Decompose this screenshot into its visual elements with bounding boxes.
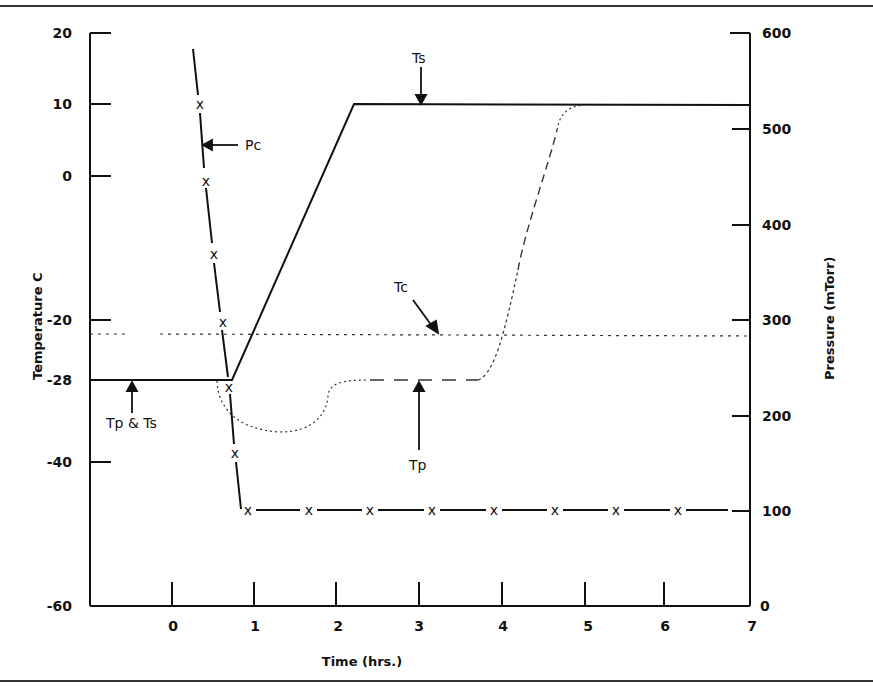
axes [90, 33, 750, 606]
tick-x-5: 5 [583, 618, 593, 634]
y-right-title: Pressure (mTorr) [822, 256, 837, 380]
pc-marker: x [428, 502, 436, 518]
chart: 20 10 0 -20 -28 -40 -60 600 500 400 300 … [0, 0, 873, 686]
series-tc [90, 334, 750, 336]
pc-arrowhead-icon [203, 140, 212, 150]
pc-marker: x [305, 502, 313, 518]
tick-right-200: 200 [762, 408, 791, 424]
label-pc: Pc [245, 137, 261, 153]
left-ticks [90, 104, 111, 462]
label-tc: Tc [393, 279, 408, 295]
x-tick-labels: 0 1 2 3 4 5 6 7 [168, 618, 757, 634]
tick-left-0: 0 [62, 168, 72, 184]
tick-left-minus40: -40 [47, 454, 73, 470]
tick-left-minus28: -28 [47, 372, 72, 388]
tick-right-500: 500 [762, 121, 791, 137]
tick-right-400: 400 [762, 217, 791, 233]
right-ticks [732, 129, 750, 511]
pc-markers: x x x x x x x x x x x x x x [196, 96, 682, 518]
tick-x-7: 7 [747, 618, 757, 634]
tick-left-10: 10 [53, 96, 73, 112]
tick-left-20: 20 [53, 25, 73, 41]
series-tp [217, 105, 584, 432]
tp-arrowhead-icon [414, 382, 424, 391]
pc-marker: x [196, 96, 204, 112]
left-tick-labels: 20 10 0 -20 -28 -40 -60 [47, 25, 73, 614]
tick-x-3: 3 [414, 618, 424, 634]
pc-marker: x [231, 445, 239, 461]
y-left-title: Temperature C [30, 272, 45, 380]
tick-x-1: 1 [250, 618, 260, 634]
x-ticks [172, 582, 664, 606]
tick-left-minus60: -60 [47, 598, 73, 614]
pc-marker: x [366, 502, 374, 518]
pc-marker: x [674, 502, 682, 518]
tick-x-4: 4 [498, 618, 508, 634]
tp-ts-arrowhead-icon [127, 382, 137, 391]
label-tp: Tp [408, 457, 427, 473]
pc-marker: x [219, 314, 227, 330]
tick-x-0: 0 [168, 618, 178, 634]
annotation-arrows [127, 67, 438, 450]
right-tick-labels: 600 500 400 300 200 100 0 [760, 25, 791, 614]
x-axis-title: Time (hrs.) [322, 654, 402, 669]
tick-right-600: 600 [762, 25, 791, 41]
pc-marker: x [490, 502, 498, 518]
tick-right-0: 0 [760, 598, 770, 614]
tick-right-300: 300 [762, 312, 791, 328]
label-tp-ts: Tp & Ts [105, 415, 157, 431]
pc-marker: x [612, 502, 620, 518]
series-ts [90, 104, 750, 380]
pc-marker: x [225, 379, 233, 395]
label-ts: Ts [411, 50, 426, 66]
pc-marker: x [202, 173, 210, 189]
pc-marker: x [551, 502, 559, 518]
pc-marker: x [210, 246, 218, 262]
tick-right-100: 100 [762, 503, 791, 519]
tick-left-minus20: -20 [47, 312, 73, 328]
tick-x-6: 6 [660, 618, 670, 634]
pc-marker: x [244, 502, 252, 518]
tick-x-2: 2 [333, 618, 343, 634]
ts-arrowhead-icon [416, 95, 426, 104]
